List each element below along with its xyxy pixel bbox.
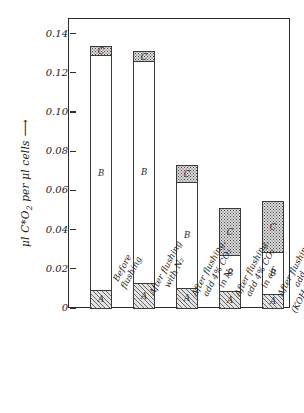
y-axis-tick-label: 0.14 xyxy=(46,28,68,38)
y-axis-tick-label: 0.10 xyxy=(46,107,68,117)
bar-segment-label: B xyxy=(227,269,233,278)
y-axis-tick-label: 0.02 xyxy=(46,263,68,273)
bar-segment-label: B xyxy=(98,169,104,178)
bar-segment-label: C xyxy=(227,228,234,237)
bar-segment-c: C xyxy=(176,165,198,183)
y-axis-title-sub: 2 xyxy=(25,205,34,210)
bar-1: CBA xyxy=(90,46,112,308)
bar-segment-label: C xyxy=(184,170,191,179)
y-axis-tick-label: 0.12 xyxy=(46,67,68,77)
y-axis-title-pre: μl C*O xyxy=(19,210,31,247)
y-axis-arrow-icon: ⟶ xyxy=(18,119,32,136)
bar-segment-label: C xyxy=(98,47,105,56)
bar-segment-label: B xyxy=(184,231,190,240)
y-axis-tick-label: 0.06 xyxy=(46,185,68,195)
bar-segment-label: A xyxy=(227,296,233,305)
bar-segment-label: A xyxy=(98,295,104,304)
bar-segment-label: B xyxy=(270,269,276,278)
bar-segment-label: A xyxy=(270,297,276,306)
y-axis-tick-label: 0.04 xyxy=(46,224,68,234)
y-axis-title-post: per μl cells xyxy=(19,140,31,205)
bar-segment-label: A xyxy=(184,294,190,303)
bar-segment-label: C xyxy=(141,53,148,62)
y-axis-tick-label: 0.08 xyxy=(46,146,68,156)
bar-segment-label: A xyxy=(141,292,147,301)
y-axis-title-text: μl C*O2 per μl cells⟶ xyxy=(18,119,34,247)
bar-segment-b: B xyxy=(90,55,112,291)
bar-segment-label: B xyxy=(141,168,147,177)
bar-segment-label: C xyxy=(270,223,277,232)
chart-figure: μl C*O2 per μl cells⟶ 00.020.040.060.080… xyxy=(0,0,304,413)
y-axis-title: μl C*O2 per μl cells⟶ xyxy=(15,53,37,313)
x-axis-labels: BeforeflushingAfter flushingwith N₂After… xyxy=(0,308,304,413)
